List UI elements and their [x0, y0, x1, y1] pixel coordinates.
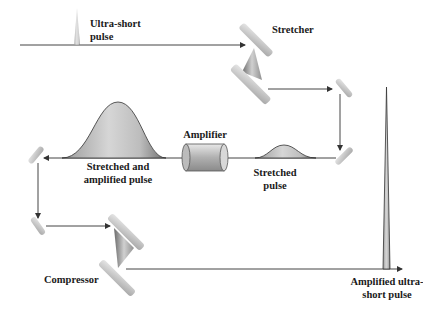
label-amplified-ultra-line2: short pulse — [362, 289, 412, 300]
label-compressor: Compressor — [44, 274, 99, 285]
stretched-pulse — [255, 145, 316, 158]
label-stretched-line2: pulse — [263, 180, 287, 191]
label-amplifier: Amplifier — [183, 129, 227, 140]
stretcher — [230, 22, 274, 105]
mirror-right-bottom — [334, 146, 354, 166]
label-stretched-amplified-line1: Stretched and — [87, 161, 150, 172]
cpa-diagram: Ultra-short pulse Stretcher Stretched pu… — [0, 0, 423, 313]
amplified-ultra-short-pulse — [383, 87, 390, 269]
label-stretched-line1: Stretched — [254, 167, 297, 178]
stretched-amplified-pulse — [62, 102, 166, 158]
label-ultra-short-line2: pulse — [90, 31, 114, 42]
ultra-short-pulse — [74, 8, 80, 45]
label-stretcher: Stretcher — [272, 24, 314, 35]
mirror-right-top — [335, 78, 354, 99]
stretcher-grating-top — [238, 22, 273, 57]
label-ultra-short-line1: Ultra-short — [90, 18, 141, 29]
label-amplified-ultra-line1: Amplified ultra- — [350, 276, 423, 287]
mirror-left-top — [27, 145, 44, 164]
label-stretched-amplified-line2: amplified pulse — [84, 174, 153, 185]
amplifier — [182, 144, 228, 171]
mirror-left-bottom — [30, 216, 46, 236]
compressor-grating-bottom — [98, 259, 136, 297]
